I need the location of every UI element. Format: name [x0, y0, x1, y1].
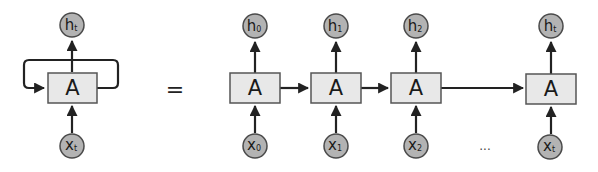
unrolled-step-0: A h0 x0	[230, 14, 280, 158]
equals-sign: =	[166, 77, 184, 102]
cell-label: A	[65, 76, 80, 100]
ellipsis: ...	[479, 139, 490, 153]
cell-label: A	[329, 76, 344, 100]
unrolled-step-t: A ht xt	[526, 14, 576, 159]
cell-label: A	[409, 76, 424, 100]
cell-label: A	[248, 76, 263, 100]
rnn-diagram: A ht xt = A h0 x0 A h1 x1 A h2	[0, 0, 598, 172]
cell-label: A	[544, 77, 559, 101]
folded-rnn: A ht xt	[24, 13, 118, 158]
unrolled-step-2: A h2 x2	[391, 14, 441, 158]
unrolled-step-1: A h1 x1	[311, 14, 361, 158]
